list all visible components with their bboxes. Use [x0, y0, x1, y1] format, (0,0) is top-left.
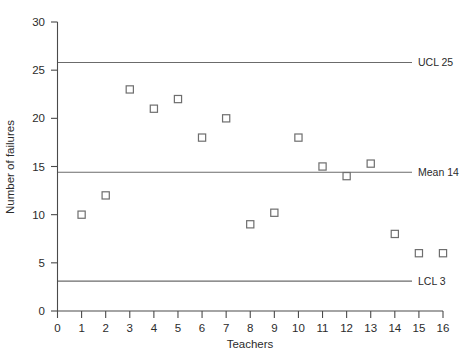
- data-point: [415, 250, 422, 257]
- x-tick-label: 16: [437, 322, 450, 334]
- x-tick-label: 4: [151, 322, 158, 334]
- data-point: [174, 95, 181, 102]
- y-tick-label: 25: [32, 64, 45, 76]
- x-axis-title: Teachers: [227, 338, 274, 350]
- x-tick-label: 15: [413, 322, 426, 334]
- control-line-label-ucl: UCL 25: [418, 56, 453, 68]
- x-tick-label: 8: [247, 322, 253, 334]
- data-point: [102, 192, 109, 199]
- chart-canvas: 051015202530 012345678910111213141516 UC…: [0, 0, 473, 358]
- data-point-group: [78, 86, 447, 257]
- data-point: [126, 86, 133, 93]
- x-tick-label: 14: [388, 322, 401, 334]
- control-line-label-mean: Mean 14: [418, 166, 459, 178]
- data-point: [223, 115, 230, 122]
- y-axis-title: Number of failures: [4, 120, 16, 214]
- control-limit-group: UCL 25Mean 14LCL 3: [58, 56, 460, 287]
- x-tick-label: 11: [317, 322, 329, 334]
- y-tick-label: 5: [39, 257, 45, 269]
- y-tick-label: 15: [32, 161, 45, 173]
- x-tick-label: 10: [292, 322, 305, 334]
- control-chart: 051015202530 012345678910111213141516 UC…: [0, 0, 473, 358]
- data-point: [78, 211, 85, 218]
- data-point: [391, 230, 398, 237]
- y-axis-tick-group: 051015202530: [32, 16, 57, 317]
- y-tick-label: 20: [32, 112, 45, 124]
- data-point: [367, 160, 374, 167]
- data-point: [271, 209, 278, 216]
- x-tick-label: 9: [271, 322, 277, 334]
- data-point: [198, 134, 205, 141]
- control-line-label-lcl: LCL 3: [418, 275, 446, 287]
- x-tick-label: 7: [223, 322, 229, 334]
- x-tick-label: 0: [54, 322, 60, 334]
- data-point: [439, 250, 446, 257]
- x-tick-label: 13: [364, 322, 377, 334]
- x-tick-label: 1: [78, 322, 84, 334]
- y-tick-label: 0: [39, 305, 45, 317]
- y-tick-label: 30: [32, 16, 45, 28]
- x-axis-tick-group: 012345678910111213141516: [54, 311, 449, 334]
- x-tick-label: 5: [175, 322, 181, 334]
- data-point: [343, 173, 350, 180]
- data-point: [295, 134, 302, 141]
- x-tick-label: 6: [199, 322, 205, 334]
- data-point: [319, 163, 326, 170]
- x-tick-label: 2: [102, 322, 108, 334]
- x-tick-label: 12: [340, 322, 353, 334]
- x-tick-label: 3: [127, 322, 133, 334]
- data-point: [150, 105, 157, 112]
- y-tick-label: 10: [32, 209, 45, 221]
- data-point: [247, 221, 254, 228]
